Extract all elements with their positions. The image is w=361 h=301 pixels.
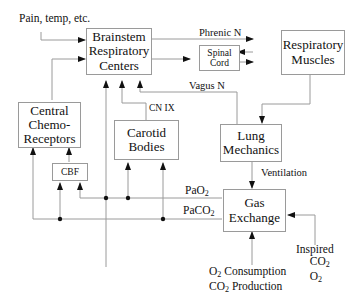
- spinal-cord-box: Spinal Cord: [199, 45, 240, 71]
- paco2-label: PaCO2: [183, 204, 215, 218]
- central-chemo-line2: Chemo-: [24, 118, 76, 132]
- co2-production-label: CO2 Production: [209, 280, 282, 294]
- inspired-co2-sub: 2: [326, 260, 330, 269]
- pao2-sub: 2: [205, 189, 209, 198]
- central-chemoreceptors-box: Central Chemo- Receptors: [18, 102, 81, 148]
- gas-exchange-box: Gas Exchange: [223, 189, 286, 232]
- brainstem-line2: Respiratory: [89, 44, 150, 58]
- pao2-label: PaO2: [185, 184, 209, 198]
- co2-production-text: Production: [229, 280, 282, 292]
- cn-ix-label: CN IX: [149, 104, 175, 114]
- cbf-box: CBF: [52, 163, 88, 181]
- inspired-text: Inspired: [296, 243, 334, 255]
- ventilation-label: Ventilation: [261, 167, 307, 178]
- spinal-cord-line1: Spinal: [207, 48, 231, 58]
- gas-exchange-line2: Exchange: [229, 211, 280, 225]
- respiratory-muscles-line2: Muscles: [283, 53, 344, 67]
- inspired-label: Inspired CO2 O2: [296, 243, 334, 284]
- inspired-co2: CO2: [296, 255, 334, 269]
- pao2-text: PaO: [185, 184, 205, 196]
- carotid-bodies-line2: Bodies: [127, 140, 166, 154]
- lung-mechanics-box: Lung Mechanics: [220, 124, 282, 162]
- respiratory-muscles-line1: Respiratory: [283, 38, 344, 52]
- inspired-o2-sub: 2: [318, 275, 322, 284]
- co2-prefix: CO: [209, 280, 225, 292]
- inspired-co2-text: CO: [310, 255, 326, 267]
- vagus-n-label: Vagus N: [189, 80, 225, 91]
- inspired-o2: O2: [296, 270, 334, 284]
- paco2-sub: 2: [210, 209, 214, 218]
- central-chemo-line1: Central: [24, 104, 76, 118]
- respiratory-muscles-box: Respiratory Muscles: [281, 30, 345, 75]
- inspired-o2-text: O: [310, 270, 318, 282]
- brainstem-respiratory-centers-box: Brainstem Respiratory Centers: [86, 28, 152, 75]
- carotid-bodies-line1: Carotid: [127, 126, 166, 140]
- spinal-cord-line2: Cord: [207, 58, 231, 68]
- brainstem-line1: Brainstem: [89, 30, 150, 44]
- lung-mechanics-line2: Mechanics: [223, 143, 279, 157]
- carotid-bodies-box: Carotid Bodies: [114, 120, 179, 160]
- phrenic-n-label: Phrenic N: [199, 27, 241, 38]
- central-chemo-line3: Receptors: [24, 132, 76, 146]
- gas-exchange-line1: Gas: [229, 196, 280, 210]
- cbf-label: CBF: [61, 167, 79, 177]
- lung-mechanics-line1: Lung: [223, 129, 279, 143]
- brainstem-line3: Centers: [89, 59, 150, 73]
- o2-consumption-text: Consumption: [221, 265, 286, 277]
- o2-consumption-label: O2 Consumption: [209, 265, 286, 279]
- paco2-text: PaCO: [183, 204, 210, 216]
- pain-temp-label: Pain, temp, etc.: [19, 12, 90, 24]
